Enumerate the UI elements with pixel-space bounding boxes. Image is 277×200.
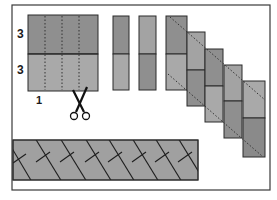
label-bottom-height: 3 bbox=[17, 64, 24, 76]
herringbone-band bbox=[10, 138, 205, 182]
stair-strip bbox=[187, 32, 205, 106]
label-top-height: 3 bbox=[17, 28, 24, 40]
cut-strip bbox=[113, 16, 129, 90]
stair-strip bbox=[166, 16, 187, 90]
stair-strip bbox=[243, 81, 265, 157]
cut-strip bbox=[139, 16, 156, 90]
diagram-canvas: 3 3 1 bbox=[0, 0, 277, 200]
stair-strip bbox=[205, 49, 223, 122]
sewn-block bbox=[28, 15, 98, 91]
label-strip-width: 1 bbox=[36, 95, 42, 106]
stair-strip bbox=[224, 65, 242, 138]
